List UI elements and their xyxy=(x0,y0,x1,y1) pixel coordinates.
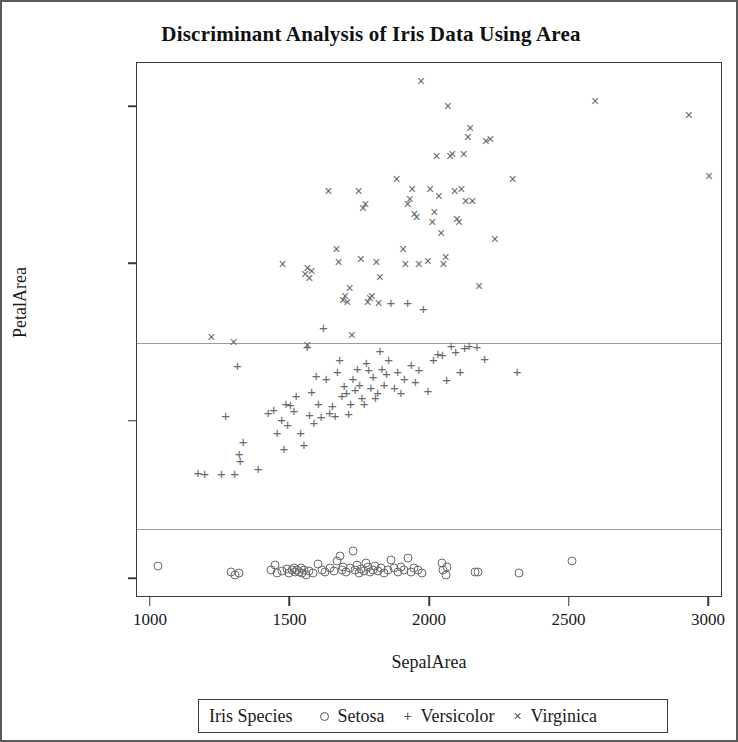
cross-marker-icon: × xyxy=(510,708,524,724)
data-point-virginica: × xyxy=(486,132,494,146)
data-point-setosa xyxy=(302,570,311,579)
data-point-virginica: × xyxy=(301,267,309,281)
data-point-versicolor: + xyxy=(193,465,202,480)
data-point-virginica: × xyxy=(448,147,456,161)
data-point-versicolor: + xyxy=(217,466,226,481)
x-tick-mark xyxy=(149,597,151,606)
data-point-setosa xyxy=(439,565,448,574)
data-point-setosa xyxy=(289,563,298,572)
y-tick-mark xyxy=(128,577,136,579)
data-point-virginica: × xyxy=(348,328,356,342)
data-point-versicolor: + xyxy=(314,395,323,410)
data-point-virginica: × xyxy=(430,205,438,219)
data-point-versicolor: + xyxy=(390,379,399,394)
data-point-virginica: × xyxy=(437,226,445,240)
data-point-versicolor: + xyxy=(279,440,288,455)
x-tick-label: 3000 xyxy=(691,610,725,630)
data-point-setosa xyxy=(414,566,423,575)
data-point-versicolor: + xyxy=(373,384,382,399)
data-point-versicolor: + xyxy=(282,395,291,410)
data-point-virginica: × xyxy=(346,281,354,295)
x-tick-mark xyxy=(568,597,570,606)
data-point-virginica: × xyxy=(279,257,287,271)
data-point-versicolor: + xyxy=(307,383,316,398)
data-point-virginica: × xyxy=(343,295,351,309)
data-point-virginica: × xyxy=(457,182,465,196)
x-tick-mark xyxy=(289,597,291,606)
data-point-setosa xyxy=(352,561,361,570)
data-point-setosa xyxy=(345,563,354,572)
data-point-setosa xyxy=(339,562,348,571)
data-point-versicolor: + xyxy=(480,350,489,365)
data-point-setosa xyxy=(418,568,427,577)
data-point-versicolor: + xyxy=(269,402,278,417)
data-point-versicolor: + xyxy=(472,339,481,354)
data-point-setosa xyxy=(294,567,303,576)
data-point-setosa xyxy=(403,554,412,563)
data-point-versicolor: + xyxy=(366,379,375,394)
data-point-versicolor: + xyxy=(513,364,522,379)
data-point-virginica: × xyxy=(426,182,434,196)
data-point-virginica: × xyxy=(705,169,713,183)
data-point-versicolor: + xyxy=(233,358,242,373)
data-point-versicolor: + xyxy=(317,409,326,424)
data-point-setosa xyxy=(273,568,282,577)
data-point-virginica: × xyxy=(439,257,447,271)
data-point-versicolor: + xyxy=(230,466,239,481)
data-point-versicolor: + xyxy=(414,361,423,376)
data-point-virginica: × xyxy=(324,184,332,198)
data-point-setosa xyxy=(230,571,239,580)
data-point-versicolor: + xyxy=(442,371,451,386)
data-point-versicolor: + xyxy=(411,374,420,389)
circle-marker-icon xyxy=(320,712,329,721)
data-point-setosa xyxy=(470,567,479,576)
data-point-setosa xyxy=(317,565,326,574)
data-point-setosa xyxy=(357,565,366,574)
data-point-virginica: × xyxy=(408,182,416,196)
data-point-setosa xyxy=(348,547,357,556)
legend-entries: Setosa+Versicolor×Virginica xyxy=(318,706,613,727)
data-point-versicolor: + xyxy=(364,361,373,376)
data-point-setosa xyxy=(293,565,302,574)
data-point-virginica: × xyxy=(417,74,425,88)
data-point-setosa xyxy=(266,565,275,574)
data-point-setosa xyxy=(567,556,576,565)
data-point-versicolor: + xyxy=(254,461,263,476)
data-point-versicolor: + xyxy=(273,424,282,439)
data-point-setosa xyxy=(383,566,392,575)
reference-line xyxy=(137,529,721,530)
data-point-versicolor: + xyxy=(362,354,371,369)
data-point-setosa xyxy=(337,565,346,574)
data-point-versicolor: + xyxy=(305,407,314,422)
data-point-virginica: × xyxy=(446,149,454,163)
data-point-virginica: × xyxy=(401,257,409,271)
data-point-virginica: × xyxy=(413,210,421,224)
data-point-setosa xyxy=(366,567,375,576)
data-point-versicolor: + xyxy=(456,364,465,379)
data-point-setosa xyxy=(285,569,294,578)
x-tick-label: 1500 xyxy=(272,610,306,630)
x-tick-label: 2500 xyxy=(552,610,586,630)
data-point-versicolor: + xyxy=(407,356,416,371)
data-point-setosa xyxy=(393,567,402,576)
data-point-virginica: × xyxy=(376,270,384,284)
data-point-versicolor: + xyxy=(303,339,312,354)
data-point-setosa xyxy=(376,564,385,573)
data-point-versicolor: + xyxy=(371,389,380,404)
data-point-virginica: × xyxy=(303,261,311,275)
data-point-virginica: × xyxy=(341,289,349,303)
data-point-virginica: × xyxy=(404,197,412,211)
data-point-setosa xyxy=(400,565,409,574)
data-point-setosa xyxy=(410,564,419,573)
data-point-setosa xyxy=(361,559,370,568)
data-point-setosa xyxy=(291,568,300,577)
data-point-setosa xyxy=(325,564,334,573)
data-point-virginica: × xyxy=(464,130,472,144)
data-point-virginica: × xyxy=(428,215,436,229)
data-point-versicolor: + xyxy=(331,408,340,423)
data-point-versicolor: + xyxy=(384,351,393,366)
data-point-setosa xyxy=(355,568,364,577)
data-point-virginica: × xyxy=(424,254,432,268)
data-point-virginica: × xyxy=(357,252,365,266)
x-axis-label: SepalArea xyxy=(136,652,722,673)
